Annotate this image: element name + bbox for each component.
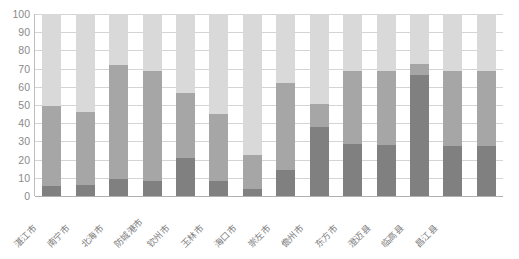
y-tick-label: 0 (0, 191, 30, 202)
bar-segment-series-2 (443, 71, 462, 146)
bar-segment-series-1 (243, 189, 262, 196)
bar-3 (109, 14, 128, 196)
x-category-label: 崇左市 (247, 224, 272, 249)
bar-segment-series-2 (143, 71, 162, 180)
bar-segment-series-3 (477, 14, 496, 71)
y-tick-label: 80 (0, 45, 30, 56)
bar-segment-series-3 (343, 14, 362, 71)
gridline (35, 196, 503, 197)
bar-segment-series-1 (176, 158, 195, 196)
bar-segment-series-1 (310, 127, 329, 196)
bar-segment-series-2 (377, 71, 396, 145)
stacked-bar-chart: 0102030405060708090100 湛江市南宁市北海市防城港市钦州市玉… (0, 0, 519, 259)
bar-segment-series-2 (410, 64, 429, 75)
bar-segment-series-3 (143, 14, 162, 71)
bar-segment-series-2 (176, 93, 195, 158)
bar-13 (443, 14, 462, 196)
bar-segment-series-2 (209, 114, 228, 181)
bar-segment-series-1 (143, 181, 162, 196)
bar-2 (76, 14, 95, 196)
bar-segment-series-1 (109, 179, 128, 196)
bar-segment-series-2 (477, 71, 496, 146)
bar-8 (276, 14, 295, 196)
bar-7 (243, 14, 262, 196)
x-category-label: 南宁市 (46, 224, 71, 249)
bar-6 (209, 14, 228, 196)
x-category-label: 北海市 (80, 224, 105, 249)
bar-segment-series-2 (276, 83, 295, 169)
bar-5 (176, 14, 195, 196)
y-tick-label: 70 (0, 63, 30, 74)
bars-layer (35, 14, 503, 196)
bar-segment-series-1 (42, 186, 61, 196)
bar-segment-series-1 (76, 185, 95, 196)
y-tick-label: 20 (0, 154, 30, 165)
bar-segment-series-3 (209, 14, 228, 114)
y-tick-label: 60 (0, 82, 30, 93)
y-tick-label: 50 (0, 100, 30, 111)
plot-area (35, 14, 503, 196)
y-tick-label: 10 (0, 173, 30, 184)
x-axis-category-labels: 湛江市南宁市北海市防城港市钦州市玉林市海口市崇左市儋州市东方市澄迈县临高县昌江县 (35, 198, 503, 258)
bar-segment-series-1 (377, 145, 396, 196)
bar-12 (410, 14, 429, 196)
bar-segment-series-2 (109, 65, 128, 179)
bar-segment-series-3 (76, 14, 95, 112)
bar-segment-series-3 (243, 14, 262, 155)
bar-segment-series-1 (276, 170, 295, 196)
bar-segment-series-3 (377, 14, 396, 71)
x-category-label: 玉林市 (180, 224, 205, 249)
bar-segment-series-1 (443, 146, 462, 196)
x-category-label: 东方市 (314, 224, 339, 249)
bar-4 (143, 14, 162, 196)
bar-11 (377, 14, 396, 196)
x-category-label: 儋州市 (280, 224, 305, 249)
x-category-label: 昌江县 (414, 224, 439, 249)
bar-segment-series-3 (410, 14, 429, 64)
bar-segment-series-1 (477, 146, 496, 196)
bar-10 (343, 14, 362, 196)
x-category-label: 澄迈县 (347, 224, 372, 249)
bar-segment-series-1 (209, 181, 228, 196)
x-category-label: 湛江市 (13, 224, 38, 249)
bar-segment-series-3 (443, 14, 462, 71)
x-category-label: 海口市 (213, 224, 238, 249)
bar-segment-series-3 (109, 14, 128, 65)
bar-segment-series-1 (410, 75, 429, 196)
bar-9 (310, 14, 329, 196)
bar-segment-series-1 (343, 144, 362, 196)
bar-segment-series-2 (310, 104, 329, 127)
y-tick-label: 40 (0, 118, 30, 129)
y-tick-label: 100 (0, 9, 30, 20)
y-tick-label: 30 (0, 136, 30, 147)
x-category-label: 防城港市 (113, 218, 145, 250)
y-axis-tick-labels: 0102030405060708090100 (0, 14, 30, 196)
y-tick-label: 90 (0, 27, 30, 38)
bar-segment-series-2 (42, 106, 61, 186)
bar-segment-series-3 (310, 14, 329, 104)
bar-segment-series-3 (176, 14, 195, 93)
bar-segment-series-3 (276, 14, 295, 83)
x-category-label: 钦州市 (146, 224, 171, 249)
bar-segment-series-2 (76, 112, 95, 185)
x-category-label: 临高县 (380, 224, 405, 249)
bar-segment-series-2 (243, 155, 262, 189)
bar-1 (42, 14, 61, 196)
bar-segment-series-3 (42, 14, 61, 106)
bar-14 (477, 14, 496, 196)
bar-segment-series-2 (343, 71, 362, 144)
